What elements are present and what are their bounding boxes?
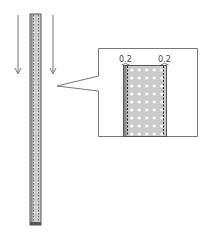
magnified-section [124,66,167,137]
right-arrow-icon [50,15,56,74]
perforated-strip [30,14,41,225]
right-width-label: 0.2 [158,55,171,64]
diagram-canvas: 0.2 0.2 [0,0,213,236]
left-width-label: 0.2 [119,55,132,64]
left-arrow-icon [15,15,21,74]
left-width-dimension: 0.2 [119,55,132,65]
right-width-dimension: 0.2 [158,55,171,65]
